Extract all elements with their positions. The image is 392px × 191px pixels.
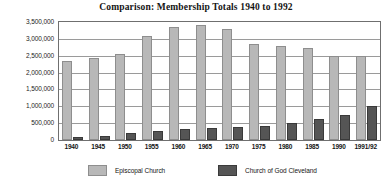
bar-episcopal-church-1980	[276, 46, 286, 140]
bar-episcopal-church-1955	[142, 36, 152, 141]
y-tick-label: 2,500,000	[0, 51, 54, 58]
legend-label: Church of God Cleveland	[245, 167, 317, 174]
y-tick-label: 1,500,000	[0, 85, 54, 92]
bar-church-of-god-cleveland-1970	[233, 127, 243, 140]
bar-episcopal-church-1985	[303, 48, 313, 140]
bar-church-of-god-cleveland-1940	[73, 137, 83, 140]
bar-church-of-god-cleveland-1945	[100, 136, 110, 140]
bar-episcopal-church-1950	[115, 54, 125, 140]
y-tick-label: 500,000	[0, 119, 54, 126]
bar-episcopal-church-1960	[169, 27, 179, 140]
bars-layer	[59, 22, 380, 140]
bar-episcopal-church-1991-92	[356, 56, 366, 140]
legend-swatch-icon	[88, 165, 107, 176]
x-tick-label: 1960	[171, 143, 185, 150]
legend-entry: Church of God Cleveland	[218, 164, 317, 177]
x-tick-label: 1950	[118, 143, 132, 150]
x-tick-label: 1991/92	[354, 143, 376, 150]
bar-group	[300, 22, 327, 140]
x-tick-label: 1980	[278, 143, 292, 150]
plot-area	[58, 21, 381, 141]
legend-entry: Episcopal Church	[88, 164, 165, 177]
y-tick-label: 3,500,000	[0, 18, 54, 25]
bar-episcopal-church-1970	[222, 29, 232, 140]
bar-church-of-god-cleveland-1991-92	[367, 106, 377, 140]
bar-church-of-god-cleveland-1960	[180, 129, 190, 140]
x-tick-label: 1990	[332, 143, 346, 150]
bar-group	[86, 22, 113, 140]
bar-group	[353, 22, 380, 140]
bar-episcopal-church-1965	[196, 25, 206, 140]
y-axis: 3,500,0003,000,0002,500,0002,000,0001,50…	[0, 21, 54, 141]
bar-church-of-god-cleveland-1990	[340, 115, 350, 140]
x-tick-label: 1940	[64, 143, 78, 150]
y-tick-label: 1,000,000	[0, 102, 54, 109]
bar-group	[273, 22, 300, 140]
y-tick-label: 3,000,000	[0, 34, 54, 41]
bar-group	[246, 22, 273, 140]
x-tick-label: 1965	[198, 143, 212, 150]
legend-swatch-icon	[218, 165, 237, 176]
y-tick-label: 2,000,000	[0, 68, 54, 75]
bar-group	[59, 22, 86, 140]
bar-group	[113, 22, 140, 140]
bar-church-of-god-cleveland-1950	[126, 133, 136, 140]
bar-church-of-god-cleveland-1980	[287, 123, 297, 140]
x-tick-label: 1985	[305, 143, 319, 150]
x-tick-label: 1975	[252, 143, 266, 150]
bar-episcopal-church-1990	[329, 56, 339, 140]
bar-group	[220, 22, 247, 140]
bar-group	[166, 22, 193, 140]
bar-church-of-god-cleveland-1985	[314, 119, 324, 140]
membership-comparison-chart: Comparison: Membership Totals 1940 to 19…	[0, 0, 392, 191]
bar-group	[139, 22, 166, 140]
y-tick-label: 0	[0, 136, 54, 143]
x-tick-label: 1955	[145, 143, 159, 150]
x-axis: 1940194519501955196019651970197519801985…	[58, 143, 381, 155]
bar-group	[327, 22, 354, 140]
chart-title: Comparison: Membership Totals 1940 to 19…	[0, 2, 392, 12]
bar-church-of-god-cleveland-1975	[260, 126, 270, 140]
bar-episcopal-church-1975	[249, 44, 259, 140]
chart-legend: Episcopal ChurchChurch of God Cleveland	[58, 164, 388, 180]
bar-episcopal-church-1945	[89, 58, 99, 140]
legend-label: Episcopal Church	[115, 167, 165, 174]
x-tick-label: 1945	[91, 143, 105, 150]
bar-church-of-god-cleveland-1955	[153, 131, 163, 140]
x-tick-label: 1970	[225, 143, 239, 150]
bar-episcopal-church-1940	[62, 61, 72, 140]
bar-group	[193, 22, 220, 140]
bar-church-of-god-cleveland-1965	[207, 128, 217, 140]
